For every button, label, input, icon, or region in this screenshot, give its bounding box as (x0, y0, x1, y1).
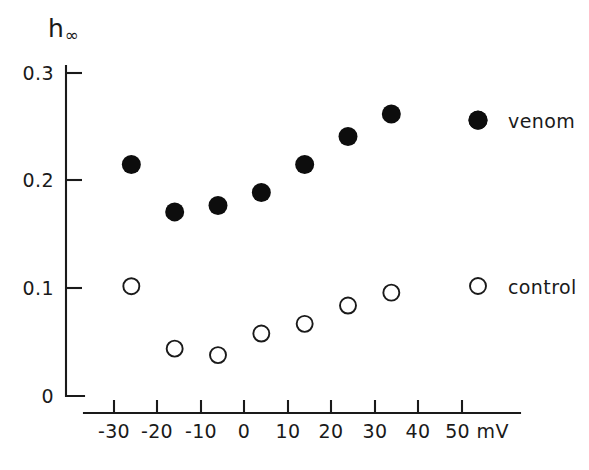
data-point-control (297, 316, 313, 332)
legend-label-control: control (508, 276, 577, 298)
y-tick-label-0.1: 0.1 (10, 277, 54, 299)
legend-marker-venom (469, 111, 488, 130)
plot-area (0, 0, 589, 470)
legend-marker-control (470, 278, 486, 294)
data-point-venom (252, 183, 271, 202)
series-venom-points (122, 104, 488, 221)
data-point-control (123, 278, 139, 294)
series-control-points (123, 278, 399, 363)
chart-figure: h∞ 0.3 0.2 0.1 0 -30 -20 -10 0 10 20 (0, 0, 589, 470)
data-point-control (383, 285, 399, 301)
y-tick-label-0.2: 0.2 (10, 169, 54, 191)
data-point-venom (122, 155, 141, 174)
x-tick-label-50: 50 mV (432, 420, 522, 442)
data-point-control (253, 326, 269, 342)
data-point-venom (382, 104, 401, 123)
data-point-control (167, 341, 183, 357)
y-tick-label-0.3: 0.3 (10, 62, 54, 84)
data-point-venom (165, 202, 184, 221)
data-point-venom (209, 196, 228, 215)
data-point-control (210, 347, 226, 363)
legend-label-venom: venom (508, 110, 575, 132)
data-point-venom (295, 155, 314, 174)
y-axis-line (66, 66, 84, 396)
y-tick-label-0: 0 (10, 385, 54, 407)
data-point-control (340, 298, 356, 314)
data-point-venom (339, 127, 358, 146)
